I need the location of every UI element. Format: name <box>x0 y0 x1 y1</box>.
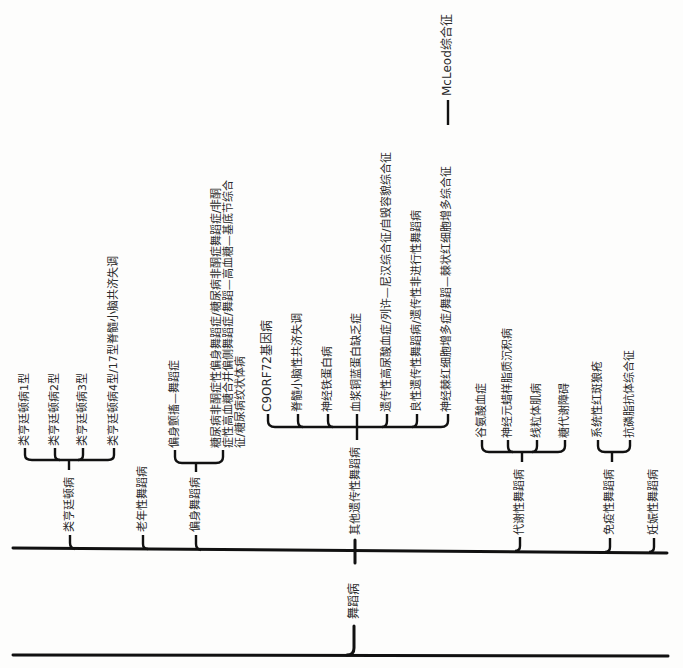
leaf-carbohydrate-metabolism: 糖代谢障碍 <box>559 383 571 438</box>
branch-other-hereditary: 其他遗传性舞蹈病 <box>350 447 362 535</box>
branch-hemichorea: 偏身舞蹈病 <box>190 477 202 532</box>
branch-immune: 免疫性舞蹈病 <box>604 469 616 535</box>
leaf-hdl3: 类亨廷顿病3型 <box>77 373 89 446</box>
leaf-lesch-nyhan: 遗传性高尿酸血症/列许—尼汉综合征/自毁容貌综合征 <box>381 152 393 412</box>
leaf-hemiballism-chorea: 偏身颤搐—舞蹈症 <box>169 360 181 448</box>
leaf-glutaric-acidemia: 谷氨酸血症 <box>476 383 488 438</box>
leaf-diabetic-striatopathy: 糖尿病非酮症性偏身舞蹈症/糖尿病非酮症舞蹈症/非酮症性高血糖合并偏侧舞蹈症/舞蹈… <box>211 178 247 448</box>
branch-pregnancy: 妊娠性舞蹈病 <box>648 469 660 535</box>
leaf-mcleod-syndrome: McLeod综合征 <box>441 14 453 96</box>
leaf-hdl2: 类亨廷顿病2型 <box>49 373 61 446</box>
branch-metabolic: 代谢性舞蹈病 <box>514 469 526 535</box>
leaf-sle: 系统性红斑狼疮 <box>592 361 604 438</box>
leaf-c9orf72: C9ORF72基因病 <box>261 320 273 412</box>
leaf-neuroferritinopathy: 神经铁蛋白病 <box>322 346 334 412</box>
leaf-mitochondrial-myopathy: 线粒体肌病 <box>531 383 543 438</box>
leaf-benign-hereditary-chorea: 良性遗传性舞蹈病/遗传性非进行性舞蹈病 <box>411 210 423 412</box>
leaf-ncl: 神经元蜡样脂质沉积病 <box>502 328 514 438</box>
leaf-neuroacanthocytosis: 神经棘红细胞增多症/舞蹈—棘状红细胞增多综合征 <box>441 166 453 412</box>
leaf-hdl4: 类亨廷顿病4型/17型脊髓小脑共济失调 <box>108 256 120 446</box>
branch-senile-chorea: 老年性舞蹈病 <box>137 466 149 532</box>
leaf-aceruloplasminemia: 血浆铜蓝蛋白缺乏症 <box>351 313 363 412</box>
leaf-antiphospholipid: 抗磷脂抗体综合征 <box>624 350 636 438</box>
root-label: 舞蹈病 <box>348 583 360 619</box>
leaf-hdl1: 类亨廷顿病1型 <box>19 373 31 446</box>
branch-huntington-like: 类亨廷顿病 <box>64 477 76 532</box>
leaf-sca: 脊髓小脑性共济失调 <box>292 313 304 412</box>
tree-connectors <box>0 0 683 668</box>
